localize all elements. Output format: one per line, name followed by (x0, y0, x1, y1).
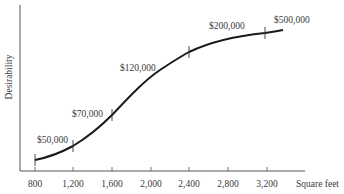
desirability-curve (35, 30, 283, 160)
x-tick-label: 1,200 (62, 179, 84, 189)
curve-tick-marks (35, 27, 265, 166)
desirability-chart: 800 1,200 1,600 2,000 2,400 2,800 3,200 … (0, 0, 344, 194)
x-tick-label: 800 (28, 179, 43, 189)
x-tick-label: 2,400 (178, 179, 200, 189)
annotation-500000: $500,000 (274, 15, 310, 25)
annotation-120000: $120,000 (120, 63, 156, 73)
annotation-50000: $50,000 (37, 135, 68, 145)
x-axis-title: Square feet (296, 179, 339, 189)
x-axis-ticks (35, 167, 267, 171)
annotation-200000: $200,000 (209, 21, 245, 31)
x-tick-label: 1,600 (101, 179, 123, 189)
x-tick-label: 3,200 (256, 179, 278, 189)
annotation-70000: $70,000 (72, 109, 103, 119)
x-tick-label: 2,800 (217, 179, 239, 189)
x-tick-label: 2,000 (140, 179, 162, 189)
y-axis-title: Desirability (4, 54, 14, 99)
